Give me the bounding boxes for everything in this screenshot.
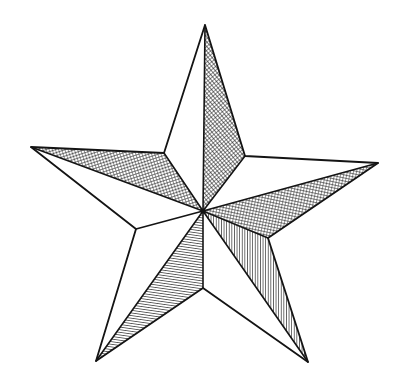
center-vertex-dot [200, 208, 205, 213]
star-illustration [0, 0, 400, 390]
